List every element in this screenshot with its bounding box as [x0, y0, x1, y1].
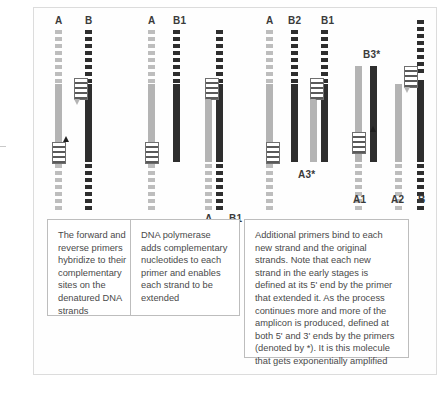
p2-strand-a-dotted-top: [148, 30, 155, 84]
strand-label-p2-B1: B1: [173, 16, 186, 26]
primer-forward-arrow-p3-2: [370, 126, 376, 132]
p2b-new-strand-a: [205, 100, 212, 162]
p3-b3star-solid: [370, 66, 377, 162]
strand-label-p2-A: A: [148, 16, 155, 26]
primer-forward-p3-1: [266, 142, 280, 164]
strand-a-dotted-bottom: [55, 164, 62, 212]
primer-reverse-p1: [74, 78, 88, 100]
primer-forward-p1: [52, 142, 66, 164]
primer-reverse-p3-2: [404, 66, 418, 88]
strand-label-p3-B2: B2: [288, 16, 301, 26]
p3-b2-solid: [291, 84, 298, 162]
strand-label-p3-B1: B1: [321, 16, 334, 26]
strand-a-dotted-top: [55, 30, 62, 84]
p3-b2-dotted-top: [291, 30, 298, 84]
strand-b-dotted-bottom: [85, 164, 92, 212]
strand-label-p3-A1: A1: [353, 195, 366, 205]
diagram-area: A B: [38, 10, 434, 215]
p3-a-dotted-bottom: [266, 164, 273, 212]
primer-reverse-p2: [205, 78, 219, 100]
strand-label-p3-B3star: B3*: [363, 50, 380, 60]
caption-box-3: Additional primers bind to each new stra…: [244, 219, 409, 358]
strand-label-p3-A: A: [266, 16, 273, 26]
p3-b-solid: [417, 80, 424, 162]
p3-a2-solid: [395, 84, 402, 162]
strand-label-p1-B: B: [85, 16, 92, 26]
strand-label-p3-A3star: A3*: [298, 170, 315, 180]
p2-strand-a-dotted-bottom: [148, 164, 155, 212]
p3-b1-dotted-top: [321, 30, 328, 84]
primer-reverse-arrow-p1: [74, 99, 80, 105]
strand-label-p3-B: B: [418, 195, 425, 205]
p2-strand-b1-solid: [173, 84, 180, 162]
p2b-strand-b-dotted-bottom: [216, 164, 223, 212]
primer-forward-p2: [145, 142, 159, 164]
strand-b-dotted-top: [85, 30, 92, 84]
strand-label-p3-A2: A2: [391, 195, 404, 205]
figure-page: A B: [0, 0, 442, 393]
left-margin-rule: [0, 146, 6, 147]
primer-forward-p3-2: [352, 132, 366, 154]
p3-a-dotted-top: [266, 30, 273, 84]
p2b-new-strand-a-dotted: [205, 164, 212, 212]
primer-reverse-arrow-p3-2: [404, 87, 410, 93]
p3-a3star-solid: [310, 100, 317, 162]
primer-reverse-p3-1: [310, 78, 324, 100]
caption-box-2: DNA polymerase adds complementary nucleo…: [130, 219, 240, 316]
caption-box-1: The forward and reverse primers hybridiz…: [47, 219, 140, 316]
p2-strand-b1-dotted-top: [173, 30, 180, 84]
primer-forward-arrow-p1: [63, 136, 69, 142]
strand-label-p1-A: A: [55, 16, 62, 26]
p3-b-dotted-top: [417, 20, 424, 80]
p2b-strand-b-dotted-top: [216, 30, 223, 84]
